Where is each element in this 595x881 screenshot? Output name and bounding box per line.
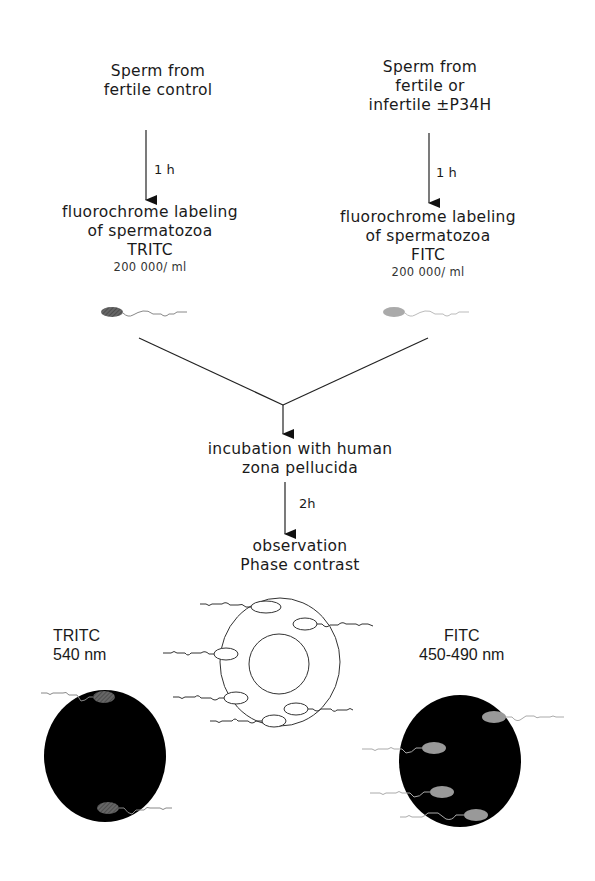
zona-pellucida-phase-contrast: [163, 598, 373, 727]
diagram-graphics: [0, 0, 595, 881]
merge-lines: [139, 338, 428, 434]
tritc-zona-fluorescence: [41, 690, 172, 822]
fitc-sperm-icon: [383, 307, 469, 317]
tritc-sperm-icon: [101, 307, 187, 317]
fitc-zona-fluorescence: [362, 695, 564, 827]
